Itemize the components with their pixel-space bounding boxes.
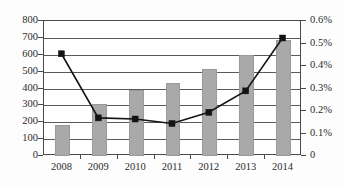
x-axis-tick-label: 2009 [78,162,118,173]
x-tick-mark [227,155,228,159]
right-tick-mark [301,133,306,134]
right-tick-mark [301,155,306,156]
right-tick-mark [301,110,306,111]
right-tick-mark [301,20,306,21]
left-axis-tick-label: 200 [22,116,38,127]
right-axis-tick-label: 0.1% [310,128,332,139]
bar-2010 [129,90,144,156]
left-axis-tick-label: 700 [22,32,38,43]
x-tick-mark [190,155,191,159]
x-axis-tick-label: 2012 [189,162,229,173]
x-tick-mark [264,155,265,159]
right-tick-mark [301,88,306,89]
x-axis-tick-label: 2014 [263,162,303,173]
x-tick-mark [154,155,155,159]
bar-2014 [276,40,291,156]
left-axis-tick-label: 300 [22,99,38,110]
bar-2009 [92,104,107,156]
x-axis-tick-label: 2013 [226,162,266,173]
plot-area [43,20,301,155]
gridline [44,72,300,73]
right-tick-mark [301,43,306,44]
x-axis-tick-label: 2008 [41,162,81,173]
right-axis-tick-label: 0.2% [310,105,332,116]
left-axis-tick-label: 800 [22,15,38,26]
dual-axis-chart: 0100200300400500600700800 00.1%0.2%0.3%0… [0,0,345,187]
bar-2013 [239,55,254,156]
bar-2011 [166,83,181,156]
x-tick-mark [117,155,118,159]
left-tick-mark [38,155,43,156]
bar-2008 [55,125,70,156]
left-axis-tick-label: 500 [22,66,38,77]
right-axis-tick-label: 0 [310,150,315,161]
right-axis-tick-label: 0.3% [310,83,332,94]
left-axis-tick-label: 600 [22,49,38,60]
left-axis-tick-label: 400 [22,83,38,94]
right-tick-mark [301,65,306,66]
x-axis-tick-label: 2011 [152,162,192,173]
gridline [44,38,300,39]
bar-2012 [202,69,217,156]
right-axis-tick-label: 0.6% [310,15,332,26]
right-axis-tick-label: 0.4% [310,60,332,71]
gridline [44,55,300,56]
x-tick-mark [80,155,81,159]
right-axis-tick-label: 0.5% [310,38,332,49]
left-axis-tick-label: 100 [22,133,38,144]
x-axis-tick-label: 2010 [115,162,155,173]
